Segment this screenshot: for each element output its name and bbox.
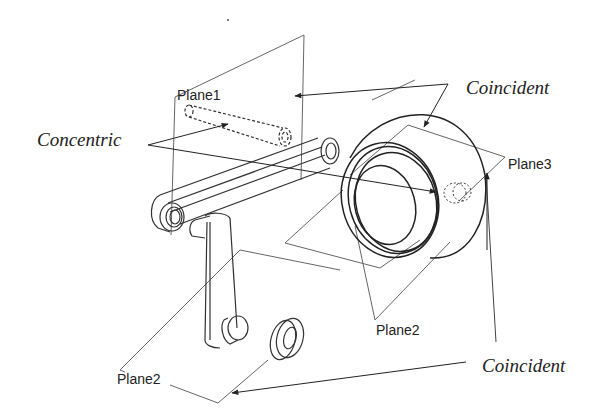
label-plane1: Plane1 <box>177 88 221 102</box>
connecting-rod <box>151 138 339 232</box>
label-coincident-bottom: Coincident <box>482 356 565 375</box>
crank <box>190 213 248 348</box>
label-plane3: Plane3 <box>508 157 552 171</box>
plane1-outline <box>171 35 304 235</box>
coincident-top-arrows <box>295 84 448 127</box>
washer <box>266 315 308 362</box>
label-plane2-left: Plane2 <box>117 372 161 386</box>
assembly-diagram: Plane1 Concentric Coincident Plane3 Plan… <box>0 0 606 419</box>
stray-dot <box>227 19 229 21</box>
label-concentric: Concentric <box>37 130 121 149</box>
piston <box>329 115 486 269</box>
label-coincident-top: Coincident <box>466 78 549 97</box>
plane2-right-outline <box>285 190 450 320</box>
label-plane2-right: Plane2 <box>376 323 420 337</box>
pin-ghost-plane1 <box>185 105 291 146</box>
coincident-bottom-arrow <box>232 362 466 393</box>
